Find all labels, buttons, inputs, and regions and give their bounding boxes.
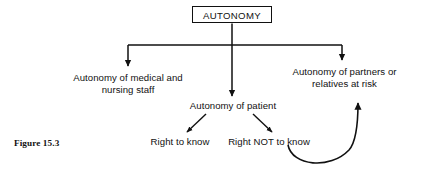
- node-label-right-not-to-know: Right NOT to know: [220, 136, 318, 148]
- node-label-right-to-know: Right to know: [142, 136, 218, 148]
- figure-container: AUTONOMY Autonomy of medical and nursing…: [0, 0, 423, 174]
- connector-curve-not-know-to-partners: [288, 103, 358, 163]
- connector-patient-to-right-not-to-know: [253, 114, 272, 132]
- connector-patient-to-right-to-know: [187, 114, 206, 132]
- figure-caption: Figure 15.3: [14, 138, 59, 148]
- node-label-medical-nursing-staff: Autonomy of medical and nursing staff: [38, 72, 218, 95]
- autonomy-root-label: AUTONOMY: [193, 7, 271, 24]
- node-label-autonomy-of-patient: Autonomy of patient: [168, 100, 298, 112]
- node-label-partners-relatives: Autonomy of partners or relatives at ris…: [272, 66, 417, 89]
- autonomy-root-box: AUTONOMY: [192, 6, 272, 23]
